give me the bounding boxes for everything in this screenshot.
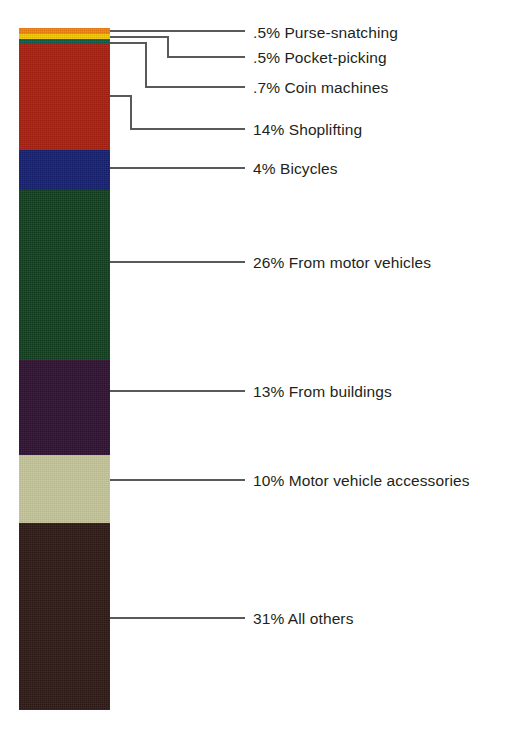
leader-line-coin-machines bbox=[110, 43, 245, 87]
callout-label-motor-vehicle-accessories: 10% Motor vehicle accessories bbox=[253, 473, 470, 489]
callout-label-from-motor-vehicles: 26% From motor vehicles bbox=[253, 255, 431, 271]
bar-segment-from-motor-vehicles bbox=[19, 190, 110, 360]
callout-label-from-buildings: 13% From buildings bbox=[253, 384, 392, 400]
bar-segment-motor-vehicle-accessories bbox=[19, 455, 110, 523]
leader-line-shoplifting bbox=[110, 96, 245, 129]
callout-label-coin-machines: .7% Coin machines bbox=[253, 80, 388, 96]
callout-label-purse-snatching: .5% Purse-snatching bbox=[253, 25, 398, 41]
bar-segment-bicycles bbox=[19, 150, 110, 190]
bar-segment-shoplifting bbox=[19, 44, 110, 150]
callout-label-bicycles: 4% Bicycles bbox=[253, 161, 338, 177]
callout-label-pocket-picking: .5% Pocket-picking bbox=[253, 50, 387, 66]
bar-segment-from-buildings bbox=[19, 360, 110, 455]
stacked-bar-column bbox=[19, 28, 110, 710]
bar-segment-all-others bbox=[19, 523, 110, 710]
leader-line-pocket-picking bbox=[110, 37, 245, 57]
callout-label-shoplifting: 14% Shoplifting bbox=[253, 122, 362, 138]
callout-label-all-others: 31% All others bbox=[253, 611, 354, 627]
chart-figure: .5% Purse-snatching .5% Pocket-picking .… bbox=[0, 0, 528, 730]
